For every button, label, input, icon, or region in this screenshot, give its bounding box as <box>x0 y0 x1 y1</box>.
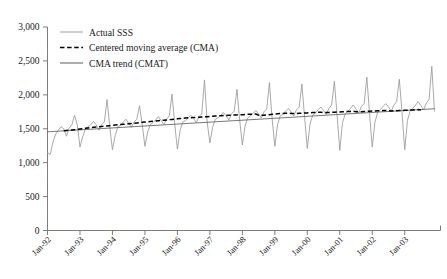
chart-container: 05001,0001,5002,0002,5003,000 Jan-92Jan-… <box>0 0 447 279</box>
x-tick-label: Jan-01 <box>322 234 345 257</box>
x-tick-label: Jan-97 <box>192 234 216 258</box>
x-tick-label: Jan-94 <box>95 234 119 258</box>
legend-label: CMA trend (CMAT) <box>89 58 168 70</box>
x-tick-label: Jan-99 <box>257 234 280 257</box>
y-tick-label: 3,000 <box>18 22 40 32</box>
x-tick-label: Jan-92 <box>30 234 53 257</box>
y-tick-label: 2,000 <box>18 90 40 100</box>
y-tick-label: 500 <box>25 192 40 202</box>
line-chart: 05001,0001,5002,0002,5003,000 Jan-92Jan-… <box>0 0 447 279</box>
x-tick-label: Jan-98 <box>224 234 247 257</box>
y-tick-label: 1,000 <box>18 158 40 168</box>
legend-label: Centered moving average (CMA) <box>89 42 218 54</box>
x-tick-label: Jan-02 <box>354 234 377 257</box>
y-axis-ticks: 05001,0001,5002,0002,5003,000 <box>18 22 47 236</box>
x-axis-ticks: Jan-92Jan-93Jan-94Jan-95Jan-96Jan-97Jan-… <box>30 231 411 258</box>
x-tick-label: Jan-00 <box>289 234 312 257</box>
x-tick-label: Jan-96 <box>160 234 184 258</box>
x-tick-label: Jan-95 <box>127 234 150 257</box>
x-tick-label: Jan-03 <box>387 234 410 257</box>
y-tick-label: 2,500 <box>18 56 40 66</box>
chart-legend: Actual SSSCentered moving average (CMA)C… <box>60 27 218 70</box>
x-tick-label: Jan-93 <box>62 234 85 257</box>
legend-label: Actual SSS <box>89 27 133 38</box>
y-tick-label: 1,500 <box>18 124 40 134</box>
y-tick-label: 0 <box>35 226 40 236</box>
